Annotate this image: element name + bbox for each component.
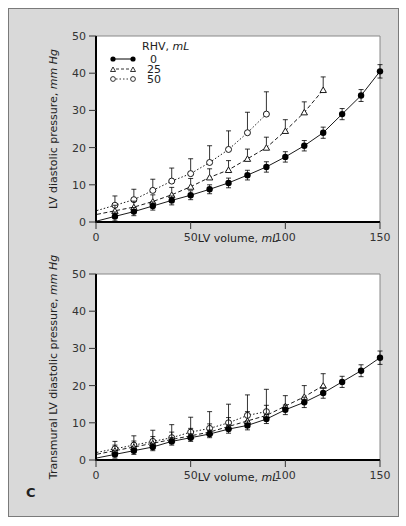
y-tick-label: 30 — [72, 104, 86, 117]
y-axis-label-top: LV diastolic pressure, mm Hg — [47, 49, 60, 209]
data-point — [188, 171, 194, 177]
data-point — [206, 431, 212, 437]
y-tick-label: 10 — [72, 179, 86, 192]
plot-area-top — [96, 36, 380, 222]
y-tick-label: 40 — [72, 305, 86, 318]
data-point — [244, 422, 250, 428]
data-point — [301, 399, 307, 405]
data-point — [131, 448, 137, 454]
y-tick-label: 30 — [72, 342, 86, 355]
y-tick-label: 0 — [79, 454, 86, 467]
x-tick-label: 150 — [370, 469, 391, 482]
data-point — [226, 146, 232, 152]
x-axis-label-bottom: LV volume, mL — [198, 471, 279, 484]
data-point — [282, 407, 288, 413]
data-point — [244, 130, 250, 136]
data-point — [112, 213, 118, 219]
x-tick-label: 0 — [93, 231, 100, 244]
legend-label-50: 50 — [147, 73, 161, 86]
data-point — [377, 68, 383, 74]
data-point — [169, 438, 175, 444]
y-axis-label-bottom: Transmural LV diastolic pressure, mm Hg — [47, 255, 60, 480]
chart-figure: 0102030405005010015001020304050050100150… — [0, 0, 406, 526]
y-tick-label: 10 — [72, 417, 86, 430]
data-point — [207, 159, 213, 165]
y-tick-label: 0 — [79, 216, 86, 229]
data-point — [206, 186, 212, 192]
data-point — [131, 208, 137, 214]
data-point — [339, 379, 345, 385]
data-point — [263, 111, 269, 117]
legend-marker-open-circle — [111, 77, 116, 82]
y-tick-label: 50 — [72, 30, 86, 43]
data-point — [112, 451, 118, 457]
data-point — [169, 178, 175, 184]
panel-label: C — [26, 485, 36, 500]
data-point — [320, 130, 326, 136]
data-point — [150, 444, 156, 450]
legend-title: RHV, mL — [142, 40, 189, 53]
y-tick-label: 50 — [72, 268, 86, 281]
y-tick-label: 20 — [72, 380, 86, 393]
data-point — [225, 180, 231, 186]
data-point — [301, 143, 307, 149]
data-point — [263, 416, 269, 422]
data-point — [358, 92, 364, 98]
data-point — [282, 154, 288, 160]
data-point — [187, 192, 193, 198]
y-tick-label: 40 — [72, 67, 86, 80]
data-point — [244, 172, 250, 178]
x-tick-label: 50 — [184, 231, 198, 244]
x-tick-label: 0 — [93, 469, 100, 482]
data-point — [377, 355, 383, 361]
y-tick-label: 20 — [72, 142, 86, 155]
data-point — [150, 203, 156, 209]
data-point — [358, 368, 364, 374]
x-tick-label: 50 — [184, 469, 198, 482]
plot-area-bottom — [96, 274, 380, 460]
data-point — [263, 164, 269, 170]
data-point — [320, 390, 326, 396]
data-point — [169, 197, 175, 203]
x-axis-label-top: LV volume, mL — [198, 232, 279, 245]
data-point — [339, 111, 345, 117]
legend-marker-filled-circle — [110, 56, 115, 61]
data-point — [150, 187, 156, 193]
data-point — [225, 426, 231, 432]
data-point — [187, 434, 193, 440]
x-tick-label: 150 — [370, 231, 391, 244]
